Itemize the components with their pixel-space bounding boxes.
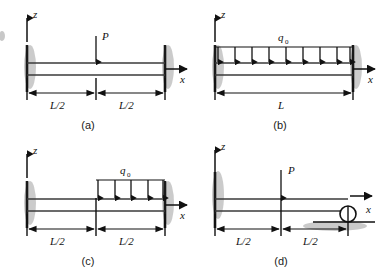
distributed-load-label-subscript: 0	[127, 171, 131, 179]
figure-canvas: z x P	[0, 0, 384, 275]
point-load-label: P	[287, 164, 295, 176]
x-axis-label: x	[367, 73, 373, 85]
panel-d-caption: (d)	[274, 255, 287, 267]
x-axis-label: x	[365, 203, 371, 215]
panel-a-caption: (a)	[81, 119, 94, 131]
x-axis-label: x	[179, 73, 185, 85]
dim-label-left: L/2	[235, 235, 251, 247]
z-axis-label: z	[220, 8, 226, 20]
z-axis-label: z	[32, 144, 38, 156]
point-load-label: P	[101, 30, 109, 42]
dim-label-right: L/2	[302, 235, 318, 247]
panel-b-caption: (b)	[273, 119, 286, 131]
dim-label-left: L/2	[49, 99, 65, 111]
dim-label-right: L/2	[118, 99, 134, 111]
distributed-load-label-subscript: 0	[285, 38, 289, 46]
figure-background	[0, 0, 384, 275]
z-axis-label: z	[220, 140, 226, 152]
beam-loading-figure: z x P	[0, 0, 384, 275]
distributed-load-label: q	[278, 31, 284, 43]
dim-label-left: L/2	[49, 235, 65, 247]
dim-label-right: L/2	[118, 235, 134, 247]
panel-c-caption: (c)	[82, 255, 95, 267]
z-axis-label: z	[32, 8, 38, 20]
x-axis-label: x	[179, 209, 185, 221]
distributed-load-label: q	[120, 164, 126, 176]
dim-label-span: L	[277, 99, 284, 111]
